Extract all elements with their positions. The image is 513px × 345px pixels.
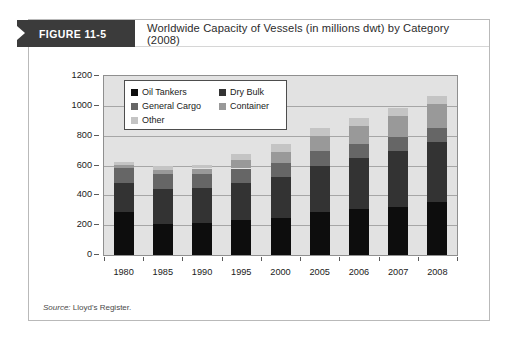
chart-area: 020040060080010001200 198019851990199520…	[29, 47, 491, 294]
legend-item-dry-bulk: Dry Bulk	[219, 88, 264, 97]
bar-segment[interactable]	[192, 169, 212, 174]
legend-row: Other	[131, 113, 280, 127]
x-tick-mark	[222, 257, 223, 261]
bar-segment[interactable]	[114, 168, 134, 184]
bar-segment[interactable]	[231, 160, 251, 168]
figure-title: Worldwide Capacity of Vessels (in millio…	[147, 20, 485, 47]
x-tick-mark	[143, 257, 144, 261]
x-tick-mark	[182, 257, 183, 261]
x-tick-mark	[457, 257, 458, 261]
bar-segment[interactable]	[271, 177, 291, 218]
bar-segment[interactable]	[231, 169, 251, 183]
legend-row: General Cargo Container	[131, 99, 280, 113]
x-tick-label: 2007	[388, 267, 408, 277]
bar-stack[interactable]	[231, 154, 251, 255]
x-tick-label: 2006	[349, 267, 369, 277]
bar-segment[interactable]	[310, 151, 330, 165]
bar-segment[interactable]	[349, 118, 369, 126]
bar-segment[interactable]	[388, 116, 408, 137]
bar-segment[interactable]	[231, 220, 251, 255]
bar-segment[interactable]	[153, 224, 173, 255]
bar-stack[interactable]	[427, 96, 447, 255]
bar-stack[interactable]	[153, 166, 173, 256]
bar-stack[interactable]	[310, 128, 330, 255]
bar-segment[interactable]	[271, 218, 291, 255]
bar-segment[interactable]	[310, 136, 330, 151]
legend-swatch-icon	[131, 117, 138, 124]
bar-segment[interactable]	[310, 128, 330, 136]
x-tick-label: 1995	[231, 267, 251, 277]
chart-legend: Oil Tankers Dry Bulk General Cargo Conta…	[124, 80, 287, 130]
x-tick-mark	[418, 257, 419, 261]
legend-label: General Cargo	[142, 102, 201, 111]
figure-frame: FIGURE 11-5 Worldwide Capacity of Vessel…	[28, 19, 490, 321]
bar-segment[interactable]	[114, 162, 134, 165]
legend-label: Dry Bulk	[230, 88, 264, 97]
x-axis: 198019851990199520002005200620072008	[103, 257, 458, 281]
y-tick-label: 0	[87, 249, 92, 259]
bar-segment[interactable]	[349, 144, 369, 158]
x-tick-label: 2008	[427, 267, 447, 277]
bar-segment[interactable]	[153, 174, 173, 189]
legend-row: Oil Tankers Dry Bulk	[131, 85, 280, 99]
legend-item-other: Other	[131, 116, 219, 125]
legend-label: Container	[230, 102, 269, 111]
bar-segment[interactable]	[388, 108, 408, 116]
bar-segment[interactable]	[271, 152, 291, 163]
bar-segment[interactable]	[114, 212, 134, 255]
bar-segment[interactable]	[114, 183, 134, 211]
bar-segment[interactable]	[192, 188, 212, 223]
bar-segment[interactable]	[153, 166, 173, 170]
bar-segment[interactable]	[427, 142, 447, 202]
bar-segment[interactable]	[231, 183, 251, 220]
y-tick-label: 1000	[72, 100, 92, 110]
bar-segment[interactable]	[310, 166, 330, 212]
bar-segment[interactable]	[388, 151, 408, 206]
y-tick-label: 200	[77, 219, 92, 229]
x-tick-mark	[379, 257, 380, 261]
y-tick-mark	[94, 254, 99, 255]
bar-segment[interactable]	[192, 223, 212, 255]
bar-stack[interactable]	[192, 165, 212, 255]
x-tick-mark	[104, 257, 105, 261]
bar-segment[interactable]	[427, 202, 447, 255]
source-text: Lloyd's Register.	[73, 303, 131, 312]
bar-segment[interactable]	[153, 170, 173, 174]
legend-label: Other	[142, 116, 165, 125]
legend-swatch-icon	[131, 89, 138, 96]
bar-segment[interactable]	[310, 212, 330, 255]
legend-item-oil-tankers: Oil Tankers	[131, 88, 219, 97]
legend-swatch-icon	[219, 103, 226, 110]
bar-segment[interactable]	[349, 126, 369, 144]
bar-segment[interactable]	[153, 189, 173, 223]
y-tick-label: 800	[77, 130, 92, 140]
y-tick-mark	[94, 135, 99, 136]
bar-segment[interactable]	[114, 165, 134, 168]
y-tick-label: 400	[77, 189, 92, 199]
bar-stack[interactable]	[114, 162, 134, 255]
legend-swatch-icon	[219, 89, 226, 96]
y-tick-mark	[94, 75, 99, 76]
bar-segment[interactable]	[271, 144, 291, 152]
bar-segment[interactable]	[349, 209, 369, 255]
bar-segment[interactable]	[192, 174, 212, 188]
x-tick-mark	[300, 257, 301, 261]
bar-segment[interactable]	[271, 163, 291, 177]
bar-segment[interactable]	[349, 158, 369, 209]
y-axis: 020040060080010001200	[57, 75, 99, 256]
bar-segment[interactable]	[427, 96, 447, 104]
bar-stack[interactable]	[388, 108, 408, 255]
bar-segment[interactable]	[192, 165, 212, 169]
bar-stack[interactable]	[349, 118, 369, 255]
x-tick-mark	[261, 257, 262, 261]
bar-segment[interactable]	[388, 207, 408, 255]
figure-number-badge: FIGURE 11-5	[17, 20, 135, 47]
source-prefix: Source:	[43, 303, 71, 312]
bar-segment[interactable]	[231, 154, 251, 161]
source-note: Source: Lloyd's Register.	[43, 303, 131, 312]
bar-segment[interactable]	[427, 128, 447, 142]
bar-stack[interactable]	[271, 144, 291, 255]
x-tick-label: 2005	[309, 267, 329, 277]
bar-segment[interactable]	[388, 137, 408, 151]
bar-segment[interactable]	[427, 104, 447, 128]
